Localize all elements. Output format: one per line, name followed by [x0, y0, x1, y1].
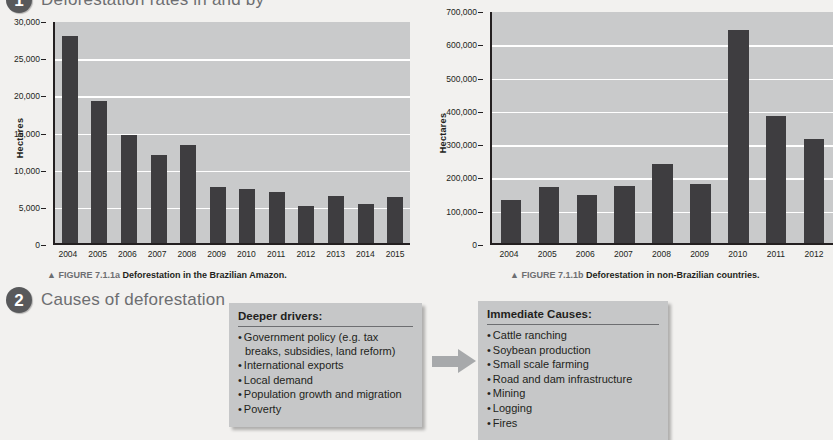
- bar-column: [795, 12, 833, 243]
- bar-column: [292, 22, 322, 243]
- x-tick-label: 2006: [566, 249, 604, 259]
- y-tick-label: 30,000: [14, 17, 40, 27]
- y-tick-label: 400,000: [446, 107, 477, 117]
- x-tick-label: 2013: [321, 249, 351, 259]
- bar-column: [262, 22, 292, 243]
- bar-column: [203, 22, 233, 243]
- bar-column: [492, 12, 530, 243]
- y-tick-label: 600,000: [446, 40, 477, 50]
- immediate-causes-item: Small scale farming: [487, 358, 659, 372]
- x-tick-label: 2008: [172, 249, 202, 259]
- immediate-causes-item: Logging: [487, 402, 659, 416]
- deeper-drivers-item: Government policy (e.g. tax breaks, subs…: [238, 331, 413, 358]
- immediate-causes-item: Cattle ranching: [487, 329, 659, 343]
- x-tick-label: 2015: [380, 249, 410, 259]
- bar: [210, 187, 226, 243]
- bar: [151, 155, 167, 243]
- immediate-causes-item: Road and dam infrastructure: [487, 373, 659, 387]
- y-tick-label: 0: [35, 240, 40, 250]
- y-tick-label: 20,000: [14, 91, 40, 101]
- x-tick-label: 2005: [528, 249, 566, 259]
- bar: [728, 30, 748, 243]
- x-tick-label: 2009: [681, 249, 719, 259]
- bar: [328, 196, 344, 243]
- bar: [62, 36, 78, 243]
- x-tick-label: 2006: [113, 249, 143, 259]
- y-tick-label: 15,000: [14, 129, 40, 139]
- bar: [539, 187, 559, 243]
- x-tick-label: 2007: [604, 249, 642, 259]
- bar-column: [380, 22, 410, 243]
- y-axis-ticks-a: 05,00010,00015,00020,00025,00030,000: [0, 22, 46, 245]
- x-tick-label: 2011: [757, 249, 795, 259]
- deeper-drivers-item: International exports: [238, 359, 413, 373]
- x-tick-label: 2014: [351, 249, 381, 259]
- y-tick-label: 10,000: [14, 166, 40, 176]
- bar-column: [719, 12, 757, 243]
- figure-number-a: FIGURE 7.1.1a: [58, 270, 120, 280]
- x-axis-a: 2004200520062007200820092010201120122013…: [53, 249, 410, 259]
- plot-area-a: [53, 22, 410, 245]
- deeper-drivers-box: Deeper drivers: Government policy (e.g. …: [229, 303, 422, 427]
- figure-text-b: Deforestation in non-Brazilian countries…: [586, 270, 760, 280]
- arrow-right-icon: [432, 349, 476, 373]
- bar: [180, 145, 196, 243]
- section-number-badge-1: 1: [6, 0, 32, 13]
- x-tick-label: 2010: [232, 249, 262, 259]
- immediate-causes-item: Soybean production: [487, 344, 659, 358]
- deeper-drivers-item: Local demand: [238, 374, 413, 388]
- bar: [501, 200, 521, 243]
- x-tick-label: 2011: [261, 249, 291, 259]
- bar: [766, 116, 786, 243]
- immediate-causes-item: Fires: [487, 417, 659, 431]
- bar: [614, 186, 634, 243]
- x-tick-label: 2009: [202, 249, 232, 259]
- y-tick-label: 100,000: [446, 207, 477, 217]
- bar: [577, 195, 597, 243]
- y-tick-label: 0: [472, 240, 477, 250]
- y-axis-ticks-b: 0100,000200,000300,000400,000500,000600,…: [423, 12, 483, 245]
- x-tick-label: 2007: [142, 249, 172, 259]
- bar-column: [351, 22, 381, 243]
- immediate-causes-item: Mining: [487, 387, 659, 401]
- bar: [91, 101, 107, 243]
- bar: [358, 204, 374, 243]
- y-tick-label: 200,000: [446, 173, 477, 183]
- chart-brazilian-amazon: Hectares 05,00010,00015,00020,00025,0003…: [0, 22, 410, 280]
- bar-column: [55, 22, 85, 243]
- bar-column: [321, 22, 351, 243]
- x-tick-label: 2012: [291, 249, 321, 259]
- figure-caption-b: ▲ FIGURE 7.1.1b Deforestation in non-Bra…: [510, 270, 760, 280]
- bar-column: [606, 12, 644, 243]
- x-tick-label: 2004: [53, 249, 83, 259]
- bar: [387, 197, 403, 243]
- x-tick-label: 2005: [83, 249, 113, 259]
- x-tick-label: 2008: [642, 249, 680, 259]
- deeper-drivers-item: Population growth and migration: [238, 388, 413, 402]
- section-title-1: Deforestation rates in and by: [41, 0, 264, 10]
- immediate-causes-box: Immediate Causes: Cattle ranchingSoybean…: [478, 301, 668, 440]
- bar-column: [173, 22, 203, 243]
- bar: [690, 184, 710, 243]
- bar: [269, 192, 285, 243]
- section-title-2: Causes of deforestation: [41, 290, 225, 310]
- bar-column: [114, 22, 144, 243]
- y-tick-label: 300,000: [446, 140, 477, 150]
- bar-column: [681, 12, 719, 243]
- plot-area-b: [490, 12, 833, 245]
- bar-column: [144, 22, 174, 243]
- bar-column: [757, 12, 795, 243]
- x-tick-label: 2012: [795, 249, 833, 259]
- caption-triangle-icon-a: ▲: [47, 270, 56, 280]
- section-heading-1: 1 Deforestation rates in and by: [6, 0, 264, 13]
- bar-column: [85, 22, 115, 243]
- deeper-drivers-item: Poverty: [238, 403, 413, 417]
- bar-column: [232, 22, 262, 243]
- bar: [652, 164, 672, 243]
- x-axis-b: 200420052006200720082009201020112012: [490, 249, 833, 259]
- y-tick-label: 500,000: [446, 74, 477, 84]
- y-tick-label: 5,000: [19, 203, 40, 213]
- x-tick-label: 2004: [490, 249, 528, 259]
- section-heading-2: 2 Causes of deforestation: [6, 287, 225, 313]
